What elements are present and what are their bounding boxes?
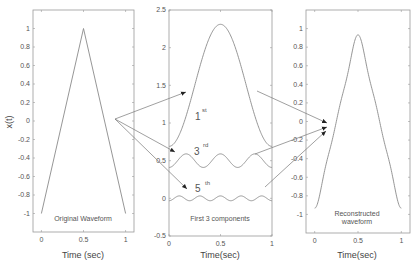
- y-tick-label: 0: [299, 118, 303, 125]
- y-tick-label: -0.6: [291, 174, 303, 181]
- x-tick-label: 0.5: [79, 236, 89, 243]
- y-tick-label: 1.5: [156, 82, 166, 89]
- x-tick-label: 0: [39, 236, 43, 243]
- fifth-harmonic-label: 5: [195, 183, 201, 194]
- y-tick-label: 0.4: [20, 80, 30, 87]
- y-tick-label: 2: [162, 44, 166, 51]
- y-tick-label: 0.2: [293, 99, 303, 106]
- right-x-axis-label: Time(sec): [337, 250, 377, 260]
- reconstructed-waveform-plot: 10.80.60.40.20-0.2-0.4-0.6-0.8-1 00.51 R…: [291, 10, 410, 260]
- y-tick-label: 0.2: [20, 99, 30, 106]
- original-waveform-plot: 10.80.60.40.20-0.2-0.4-0.6-0.8-1 00.51 O…: [4, 10, 134, 260]
- fifth-harmonic-suffix: th: [205, 180, 210, 186]
- y-tick-label: 0: [162, 195, 166, 202]
- x-tick-label: 1: [399, 237, 403, 244]
- y-tick-label: 0: [26, 117, 30, 124]
- y-tick-label: 1: [299, 25, 303, 32]
- y-tick-label: -0.5: [154, 232, 166, 239]
- x-tick-label: 0.5: [353, 237, 363, 244]
- y-tick-label: 0.4: [293, 81, 303, 88]
- y-tick-label: -0.2: [18, 136, 30, 143]
- x-tick-label: 1: [124, 236, 128, 243]
- x-tick-label: 0: [313, 237, 317, 244]
- reconstructed-label-line2: waveform: [341, 218, 373, 225]
- y-tick-label: 0.6: [293, 62, 303, 69]
- y-tick-label: 0.8: [293, 43, 303, 50]
- y-tick-label: 1: [26, 25, 30, 32]
- y-tick-label: -0.8: [18, 191, 30, 198]
- reconstructed-label-line1: Reconstructed: [334, 210, 379, 217]
- y-axis-label: x(t): [4, 116, 14, 129]
- third-harmonic-label: 3: [194, 146, 200, 157]
- first-harmonic-label: 1: [195, 111, 201, 122]
- y-tick-label: 1: [162, 119, 166, 126]
- y-tick-label: -0.6: [18, 173, 30, 180]
- y-tick-label: -0.8: [291, 192, 303, 199]
- y-tick-label: -0.4: [291, 155, 303, 162]
- middle-x-axis-label: Time(sec): [200, 250, 240, 260]
- components-plot: 2.521.510.50-0.5 00.51 1 st 3 rd 5 th Fi…: [154, 6, 274, 260]
- y-tick-label: -1: [297, 211, 303, 218]
- figure-canvas: 10.80.60.40.20-0.2-0.4-0.6-0.8-1 00.51 O…: [0, 0, 418, 265]
- y-tick-label: 2.5: [156, 6, 166, 13]
- first-harmonic-suffix: st: [202, 107, 207, 113]
- first-3-components-label: First 3 components: [190, 215, 250, 223]
- middle-axes-box: [169, 10, 272, 236]
- x-tick-label: 0.5: [216, 240, 226, 247]
- right-axes-box: [306, 10, 410, 233]
- y-tick-label: -0.4: [18, 154, 30, 161]
- y-tick-label: 0.6: [20, 62, 30, 69]
- third-harmonic-suffix: rd: [203, 142, 208, 148]
- left-x-axis-label: Time (sec): [62, 250, 104, 260]
- y-tick-label: -1: [24, 210, 30, 217]
- original-waveform-label: Original Waveform: [54, 215, 112, 223]
- y-tick-label: 0.8: [20, 43, 30, 50]
- x-tick-label: 0: [167, 240, 171, 247]
- x-tick-label: 1: [270, 240, 274, 247]
